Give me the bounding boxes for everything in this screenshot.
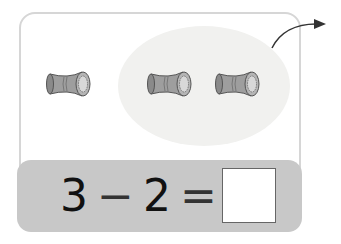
operand-1: 3: [60, 170, 88, 222]
answer-box[interactable]: [222, 168, 276, 223]
equals-sign: =: [180, 170, 217, 222]
minus-sign: −: [97, 170, 134, 222]
group-circle: [118, 26, 290, 146]
operand-2: 2: [143, 170, 171, 222]
spool-icon: [147, 69, 193, 99]
take-away-arrow-icon: [268, 14, 328, 50]
spool-icon: [46, 69, 92, 99]
spool-icon: [215, 69, 261, 99]
